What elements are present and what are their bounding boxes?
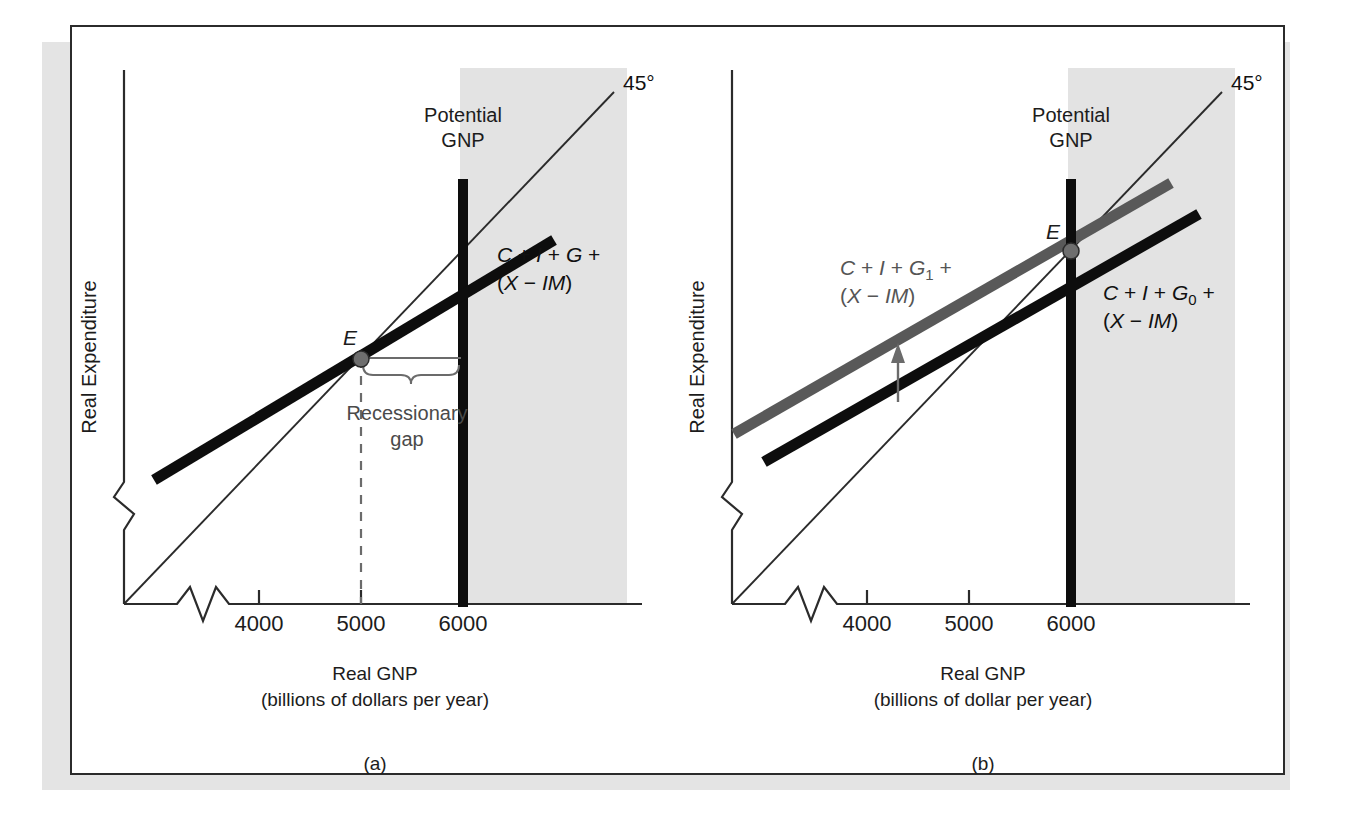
recessionary-gap-label-line1-a: Recessionary: [346, 402, 467, 424]
y-axis-label-a: Real Expenditure: [78, 280, 100, 433]
recessionary-gap-label-line2-a: gap: [390, 428, 423, 450]
panel-b: E 45° Potential GNP C + I + G1 + (X − IM…: [680, 27, 1287, 777]
degree-label-a: 45°: [623, 71, 655, 94]
shaded-region-a: [460, 68, 627, 604]
shaded-region-b: [1068, 68, 1235, 604]
curve-label-g1-line1-b: C + I + G1 +: [840, 256, 952, 283]
x-tick-label-6000-a: 6000: [439, 611, 488, 636]
x-tick-label-6000-b: 6000: [1047, 611, 1096, 636]
panel-id-a: (a): [363, 753, 386, 774]
x-tick-label-5000-a: 5000: [337, 611, 386, 636]
x-axis-title-b: Real GNP: [940, 663, 1026, 684]
potential-gnp-label-line2-a: GNP: [441, 129, 484, 151]
y-axis-a: [114, 70, 134, 604]
curve-label-line2-a: (X − IM): [497, 271, 572, 294]
x-tick-label-4000-a: 4000: [235, 611, 284, 636]
equilibrium-point-b: [1063, 243, 1079, 259]
y-axis-label-b: Real Expenditure: [686, 280, 708, 433]
curve-label-g1-line2-b: (X − IM): [840, 284, 915, 307]
y-axis-b: [722, 70, 742, 604]
panel-id-b: (b): [971, 753, 994, 774]
x-axis-subtitle-a: (billions of dollars per year): [261, 689, 489, 710]
degree-label-b: 45°: [1231, 71, 1263, 94]
x-axis-title-a: Real GNP: [332, 663, 418, 684]
x-tick-label-4000-b: 4000: [843, 611, 892, 636]
equilibrium-label-b: E: [1046, 220, 1061, 243]
potential-gnp-label-line1-b: Potential: [1032, 104, 1110, 126]
x-tick-label-5000-b: 5000: [945, 611, 994, 636]
potential-gnp-label-line1-a: Potential: [424, 104, 502, 126]
x-axis-subtitle-b: (billions of dollar per year): [874, 689, 1093, 710]
panel-a: E 45° Potential GNP Recessionary gap C +…: [72, 27, 679, 777]
curve-label-line1-a: C + I + G +: [497, 243, 600, 266]
curve-label-g0-line1-b: C + I + G0 +: [1103, 281, 1215, 308]
potential-gnp-label-line2-b: GNP: [1049, 129, 1092, 151]
equilibrium-label-a: E: [343, 326, 358, 349]
figure-frame: E 45° Potential GNP Recessionary gap C +…: [70, 25, 1285, 775]
panel-b-plot: E 45° Potential GNP C + I + G1 + (X − IM…: [680, 27, 1287, 777]
recessionary-gap-brace: [363, 365, 459, 384]
equilibrium-point-a: [353, 351, 369, 367]
curve-label-g0-line2-b: (X − IM): [1103, 309, 1178, 332]
panel-a-plot: E 45° Potential GNP Recessionary gap C +…: [72, 27, 679, 777]
